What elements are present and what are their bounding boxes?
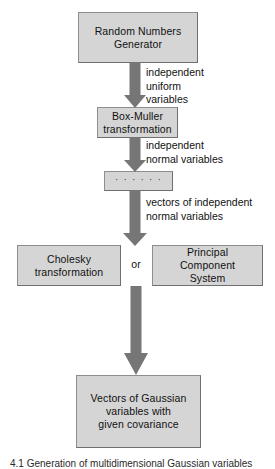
node-principal-component-system: Principal Component System (152, 245, 263, 286)
connector-label-or: or (124, 258, 148, 270)
flowchart-canvas: Random Numbers Generator Box-Muller tran… (0, 0, 275, 469)
node-vectors-of-gaussian-variables: Vectors of Gaussian variables with given… (76, 375, 201, 448)
node-ellipsis-placeholder: · · · · · · (104, 171, 173, 191)
arrow-head (124, 353, 148, 375)
figure-caption: 4.1 Generation of multidimensional Gauss… (10, 458, 272, 469)
arrow-down-icon-boxmuller-to-ellipsis (122, 137, 148, 172)
edge-label-vectors-of-independent-normal-variables: vectors of independent normal variables (146, 196, 274, 223)
arrow-shaft (131, 286, 142, 353)
node-cholesky-transformation: Cholesky transformation (17, 245, 121, 286)
arrow-down-icon-transforms-to-gaussian (123, 286, 149, 375)
node-box-muller-transformation: Box-Muller transformation (97, 107, 178, 138)
arrow-shaft (130, 190, 141, 233)
arrow-down-icon-ellipsis-to-transforms (122, 190, 148, 246)
arrow-down-icon-rng-to-boxmuller (122, 62, 148, 108)
edge-label-independent-normal-variables: independent normal variables (146, 139, 271, 166)
arrow-head (124, 95, 146, 108)
edge-label-independent-uniform-variables: independent uniform variables (146, 66, 266, 107)
arrow-head (124, 160, 146, 172)
arrow-head (123, 233, 147, 246)
ellipsis-dots-icon: · · · · · · (115, 175, 162, 185)
node-random-numbers-generator: Random Numbers Generator (78, 12, 198, 63)
arrow-shaft (130, 137, 141, 160)
arrow-shaft (130, 62, 141, 96)
